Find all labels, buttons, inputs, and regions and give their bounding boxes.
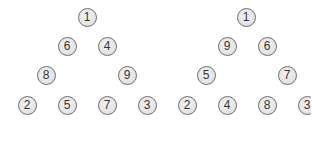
- right-tree-node: 6: [258, 37, 277, 56]
- left-tree-node: 5: [58, 96, 77, 115]
- left-tree-node: 6: [58, 37, 77, 56]
- left-tree-node: 1: [78, 8, 97, 27]
- right-tree-node: 4: [218, 96, 237, 115]
- left-tree-node: 2: [18, 96, 37, 115]
- right-tree-node: 2: [178, 96, 197, 115]
- right-tree-node: 7: [278, 66, 297, 85]
- right-tree-node: 5: [197, 66, 216, 85]
- left-tree-node: 7: [98, 96, 117, 115]
- left-tree-node: 4: [98, 37, 117, 56]
- right-tree-node: 1: [237, 8, 256, 27]
- right-tree-node: 9: [218, 37, 237, 56]
- right-tree-node: 8: [258, 96, 277, 115]
- left-tree-node: 3: [138, 96, 157, 115]
- right-tree-node: 3: [298, 96, 312, 115]
- left-tree-node: 8: [37, 66, 56, 85]
- left-tree-node: 9: [118, 66, 137, 85]
